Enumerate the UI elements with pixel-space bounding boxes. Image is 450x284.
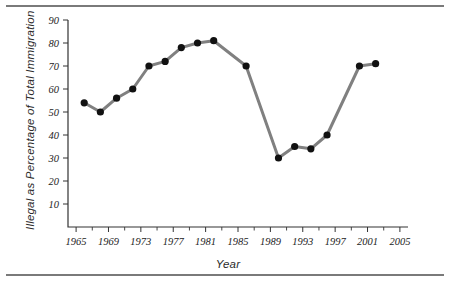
axis-frame	[68, 20, 408, 227]
x-tick-label: 2001	[357, 236, 378, 247]
x-tick-label: 1969	[98, 236, 120, 247]
data-point	[323, 131, 330, 138]
data-point	[97, 108, 104, 115]
data-point	[145, 62, 152, 69]
data-point	[178, 44, 185, 51]
x-axis-title: Year	[216, 258, 241, 270]
x-tick-label: 2005	[389, 236, 410, 247]
data-point	[291, 143, 298, 150]
series-path	[84, 41, 375, 158]
data-point-markers	[81, 37, 380, 161]
data-point	[275, 154, 282, 161]
y-axis-tick-labels: 102030405060708090	[48, 15, 60, 210]
y-tick-label: 10	[49, 199, 60, 210]
data-point	[113, 95, 120, 102]
x-tick-label: 1977	[163, 236, 185, 247]
data-point	[194, 39, 201, 46]
y-tick-label: 50	[49, 107, 60, 118]
axis-lines	[68, 20, 408, 227]
y-tick-label: 40	[49, 130, 60, 141]
chart-svg: 102030405060708090 196519691973197719811…	[0, 0, 450, 284]
data-point	[307, 145, 314, 152]
axis-tick-marks	[63, 20, 400, 232]
y-axis-title: Illegal as Percentage of Total Immigrati…	[24, 10, 36, 230]
data-point	[372, 60, 379, 67]
x-tick-label: 1989	[260, 236, 282, 247]
x-tick-label: 1965	[66, 236, 87, 247]
y-tick-label: 30	[48, 153, 60, 164]
data-series-line	[84, 41, 375, 158]
data-point	[210, 37, 217, 44]
data-point	[243, 62, 250, 69]
data-point	[356, 62, 363, 69]
x-tick-label: 1993	[292, 236, 313, 247]
data-point	[81, 99, 88, 106]
x-tick-label: 1973	[130, 236, 151, 247]
y-tick-label: 20	[49, 176, 60, 187]
x-tick-label: 1997	[325, 236, 347, 247]
x-tick-label: 1981	[195, 236, 216, 247]
y-tick-label: 80	[49, 38, 60, 49]
line-chart: 102030405060708090 196519691973197719811…	[0, 0, 450, 284]
y-tick-label: 90	[49, 15, 60, 26]
y-tick-label: 70	[49, 61, 60, 72]
figure-container: 102030405060708090 196519691973197719811…	[0, 0, 450, 284]
x-axis-tick-labels: 1965196919731977198119851989199319972001…	[66, 236, 411, 247]
y-tick-label: 60	[49, 84, 60, 95]
x-tick-label: 1985	[228, 236, 249, 247]
data-point	[129, 85, 136, 92]
data-point	[162, 58, 169, 65]
